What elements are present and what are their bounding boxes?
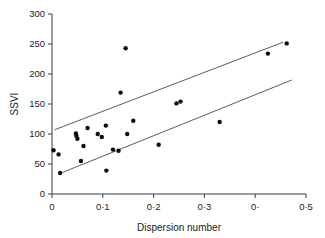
data-point xyxy=(178,99,182,103)
x-tick-label: 0· xyxy=(251,201,259,212)
data-point xyxy=(111,147,115,151)
data-point xyxy=(56,152,60,156)
data-point xyxy=(266,51,270,55)
y-tick-label: 300 xyxy=(29,8,45,19)
data-point xyxy=(79,159,83,163)
data-point xyxy=(58,171,62,175)
data-point xyxy=(284,41,288,45)
data-point xyxy=(217,120,221,124)
x-tick-label: 0·1 xyxy=(96,201,110,212)
data-point xyxy=(85,126,89,130)
data-point xyxy=(104,168,108,172)
scatter-chart-figure: 050100150200250300 00·10·20·30·0·5 Dispe… xyxy=(0,0,325,238)
y-tick-label: 200 xyxy=(29,68,45,79)
x-tick-label: 0·3 xyxy=(198,201,212,212)
data-point xyxy=(81,144,85,148)
data-point xyxy=(125,132,129,136)
plot-canvas: 050100150200250300 00·10·20·30·0·5 Dispe… xyxy=(0,0,325,238)
y-axis-title: SSVI xyxy=(9,93,20,116)
data-point xyxy=(116,149,120,153)
data-point xyxy=(75,137,79,141)
trend-lines-group xyxy=(55,42,292,173)
data-point xyxy=(174,101,178,105)
upper-bound-line xyxy=(55,42,284,130)
x-axis-ticks: 00·10·20·30·0·5 xyxy=(49,194,313,212)
y-tick-label: 0 xyxy=(40,188,45,199)
data-point xyxy=(104,123,108,127)
lower-bound-line xyxy=(61,80,292,173)
data-point xyxy=(118,90,122,94)
x-tick-label: 0·5 xyxy=(299,201,313,212)
data-point xyxy=(51,148,55,152)
x-tick-label: 0·2 xyxy=(147,201,161,212)
y-tick-label: 100 xyxy=(29,128,45,139)
y-tick-label: 50 xyxy=(34,158,45,169)
data-point xyxy=(131,119,135,123)
axes-group xyxy=(52,14,306,194)
x-axis-title: Dispersion number xyxy=(137,222,222,233)
data-point xyxy=(100,135,104,139)
y-tick-label: 150 xyxy=(29,98,45,109)
data-point xyxy=(156,143,160,147)
data-point xyxy=(123,46,127,50)
y-tick-label: 250 xyxy=(29,38,45,49)
y-axis-ticks: 050100150200250300 xyxy=(29,8,52,199)
x-tick-label: 0 xyxy=(49,201,54,212)
data-point xyxy=(96,132,100,136)
data-points-group xyxy=(51,41,289,175)
